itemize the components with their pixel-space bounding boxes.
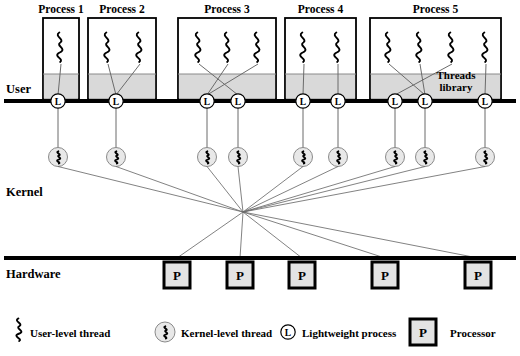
threads-library-label: library [440,81,473,93]
processor-label: P [236,268,244,283]
threads-library-band [286,74,355,99]
legend-label: Kernel-level thread [181,327,272,339]
user-level-thread-icon [16,318,21,341]
hub-to-processor-connector [243,212,478,258]
process-title: Process 2 [99,3,145,15]
legend-label: Lightweight process [302,327,397,339]
diagram-canvas: Process 1Process 2Process 3Process 4Proc… [0,0,520,356]
hub-to-processor-connector [243,212,385,258]
threads-library-band [89,74,155,99]
lwp-label: L [335,97,341,107]
lwp-label: L [55,97,61,107]
processor-label: P [419,325,427,340]
lwp-label: L [482,97,488,107]
legend-label: Processor [450,327,496,339]
kernel-to-hub-connector [116,167,243,213]
kernel-to-hub-connector [243,167,338,213]
lwp-label: L [300,97,306,107]
kernel-to-hub-connector [243,167,485,213]
hub-to-processor-connector [243,212,302,258]
lwp-label: L [422,97,428,107]
process-title: Process 4 [298,3,344,15]
layer-label-kernel: Kernel [6,185,43,199]
processor-label: P [173,268,181,283]
kernel-to-hub-connector [58,167,243,213]
legend-label: User-level thread [30,327,110,339]
lwp-label: L [113,97,119,107]
process-title: Process 5 [413,3,459,15]
threads-library-label: Threads [437,69,477,81]
layer-label-user: User [6,82,31,96]
lwp-label: L [204,97,210,107]
kernel-to-hub-connector [238,167,243,213]
thread-model-diagram: Process 1Process 2Process 3Process 4Proc… [0,0,520,356]
kernel-to-hub-connector [243,167,303,213]
kernel-to-hub-connector [243,167,395,213]
processor-label: P [298,268,306,283]
process-title: Process 1 [38,3,84,15]
layer-label-hardware: Hardware [6,267,61,281]
processor-label: P [474,268,482,283]
lwp-label: L [392,97,398,107]
hub-to-processor-connector [240,212,243,258]
lwp-label: L [285,328,291,338]
kernel-to-hub-connector [243,167,425,213]
processor-label: P [381,268,389,283]
hub-to-processor-connector [177,212,243,258]
lwp-label: L [235,97,241,107]
process-title: Process 3 [204,3,250,15]
